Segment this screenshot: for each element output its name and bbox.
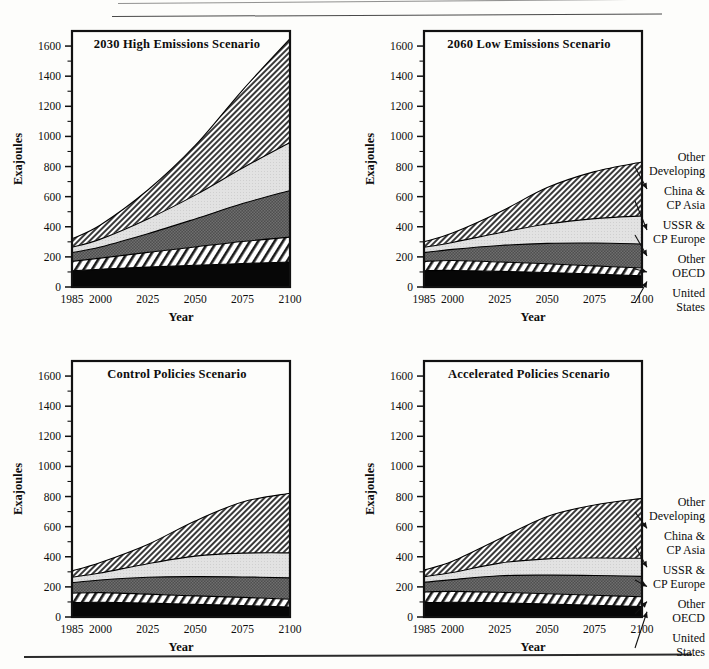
- x-tick-label: 2000: [89, 623, 112, 635]
- x-tick-label: 2025: [488, 623, 511, 635]
- y-tick-label: 0: [407, 611, 413, 623]
- panel-top-left: 0200400600800100012001400160019852000202…: [0, 18, 340, 338]
- legend-label-line2: CP Asia: [666, 198, 705, 212]
- x-tick-label: 2000: [441, 293, 464, 305]
- panel-bottom-right: 0200400600800100012001400160019852000202…: [352, 348, 709, 668]
- panel-title: Control Policies Scenario: [107, 367, 246, 381]
- y-tick-label: 600: [396, 521, 414, 533]
- legend-label-line2: CP Europe: [653, 577, 705, 591]
- y-tick-label: 800: [44, 491, 62, 503]
- y-tick-label: 0: [55, 611, 61, 623]
- x-tick-label: 2000: [89, 293, 112, 305]
- legend-label-line1: Other: [678, 252, 705, 266]
- y-tick-label: 1600: [390, 40, 413, 52]
- x-tick-label: 2025: [136, 293, 159, 305]
- figure-panel-grid: 0200400600800100012001400160019852000202…: [0, 0, 709, 669]
- x-tick-label: 2050: [536, 293, 559, 305]
- y-tick-label: 1400: [38, 70, 61, 82]
- panel-title: Accelerated Policies Scenario: [448, 367, 610, 381]
- y-tick-label: 1200: [38, 100, 61, 112]
- y-tick-label: 600: [396, 191, 414, 203]
- legend-label-line2: OECD: [672, 611, 705, 625]
- y-tick-label: 800: [396, 491, 414, 503]
- y-tick-label: 1200: [390, 430, 413, 442]
- x-tick-label: 2025: [136, 623, 159, 635]
- y-tick-label: 400: [44, 551, 62, 563]
- legend-label-line2: CP Asia: [666, 543, 705, 557]
- y-tick-label: 1600: [390, 370, 413, 382]
- legend-arrowhead: [643, 612, 648, 619]
- legend-label-line1: China &: [664, 529, 706, 543]
- legend-label-line1: USSR &: [663, 563, 706, 577]
- y-tick-label: 800: [396, 161, 414, 173]
- y-axis-title: Exajoules: [11, 463, 25, 515]
- legend-label-line1: Other: [678, 150, 705, 164]
- y-tick-label: 200: [44, 251, 62, 263]
- legend-label-line2: States: [676, 645, 705, 659]
- panel-bottom-left: 0200400600800100012001400160019852000202…: [0, 348, 340, 668]
- y-tick-label: 1400: [390, 70, 413, 82]
- y-tick-label: 1000: [38, 460, 61, 472]
- x-tick-label: 2050: [184, 623, 207, 635]
- x-tick-label: 2100: [631, 293, 654, 305]
- legend-label-line2: CP Europe: [653, 232, 705, 246]
- legend-label-line2: OECD: [672, 266, 705, 280]
- legend-label-line1: China &: [664, 184, 706, 198]
- y-tick-label: 0: [407, 281, 413, 293]
- x-axis-title: Year: [521, 310, 546, 324]
- y-tick-label: 200: [396, 581, 414, 593]
- y-tick-label: 1200: [390, 100, 413, 112]
- x-tick-label: 2075: [231, 293, 254, 305]
- legend-label-line1: Other: [678, 597, 705, 611]
- y-tick-label: 1200: [38, 430, 61, 442]
- legend-label-line2: Developing: [649, 509, 705, 523]
- legend-label-line1: United: [672, 286, 705, 300]
- chart-bottom-left: 0200400600800100012001400160019852000202…: [0, 348, 340, 668]
- chart-bottom-right: 0200400600800100012001400160019852000202…: [352, 348, 709, 668]
- y-axis-title: Exajoules: [363, 463, 377, 515]
- x-tick-label: 2075: [583, 623, 606, 635]
- y-axis-title: Exajoules: [11, 133, 25, 185]
- y-tick-label: 600: [44, 521, 62, 533]
- x-tick-label: 1985: [413, 293, 436, 305]
- x-tick-label: 1985: [61, 293, 84, 305]
- y-tick-label: 1600: [38, 40, 61, 52]
- x-axis-title: Year: [169, 310, 194, 324]
- legend-label-line1: United: [672, 631, 705, 645]
- y-tick-label: 200: [44, 581, 62, 593]
- legend-label-line1: USSR &: [663, 218, 706, 232]
- x-tick-label: 2100: [279, 293, 302, 305]
- y-tick-label: 600: [44, 191, 62, 203]
- y-tick-label: 200: [396, 251, 414, 263]
- y-tick-label: 400: [44, 221, 62, 233]
- panel-title: 2060 Low Emissions Scenario: [447, 37, 610, 51]
- x-tick-label: 2100: [279, 623, 302, 635]
- y-tick-label: 1400: [390, 400, 413, 412]
- y-tick-label: 400: [396, 551, 414, 563]
- x-tick-label: 2050: [536, 623, 559, 635]
- y-tick-label: 1600: [38, 370, 61, 382]
- chart-top-right: 0200400600800100012001400160019852000202…: [352, 18, 709, 338]
- legend-label-line2: States: [676, 300, 705, 314]
- legend-label-line2: Developing: [649, 164, 705, 178]
- y-tick-label: 0: [55, 281, 61, 293]
- x-tick-label: 1985: [61, 623, 84, 635]
- panel-top-right: 0200400600800100012001400160019852000202…: [352, 18, 709, 338]
- x-axis-title: Year: [521, 640, 546, 654]
- legend-label-line1: Other: [678, 495, 705, 509]
- y-tick-label: 400: [396, 221, 414, 233]
- panel-title: 2030 High Emissions Scenario: [94, 37, 260, 51]
- y-tick-label: 800: [44, 161, 62, 173]
- y-tick-label: 1000: [38, 130, 61, 142]
- x-tick-label: 2025: [488, 293, 511, 305]
- chart-top-left: 0200400600800100012001400160019852000202…: [0, 18, 340, 338]
- x-tick-label: 2075: [583, 293, 606, 305]
- x-tick-label: 2050: [184, 293, 207, 305]
- x-tick-label: 2075: [231, 623, 254, 635]
- y-axis-title: Exajoules: [363, 133, 377, 185]
- y-tick-label: 1000: [390, 130, 413, 142]
- x-axis-title: Year: [169, 640, 194, 654]
- y-tick-label: 1000: [390, 460, 413, 472]
- y-tick-label: 1400: [38, 400, 61, 412]
- x-tick-label: 2000: [441, 623, 464, 635]
